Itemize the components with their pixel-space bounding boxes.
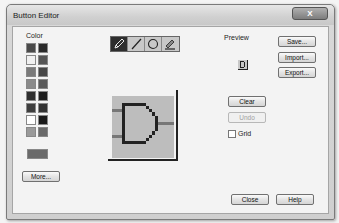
export-button[interactable]: Export... <box>278 67 316 78</box>
color-swatch[interactable] <box>38 79 48 89</box>
preview-image <box>238 60 248 72</box>
and-gate-bitmap <box>112 96 174 158</box>
close-window-button[interactable]: X <box>292 7 328 20</box>
fill-icon <box>164 38 176 50</box>
color-swatch[interactable] <box>38 103 48 113</box>
tool-pencil[interactable] <box>111 37 128 51</box>
close-button[interactable]: Close <box>231 194 269 205</box>
color-swatch[interactable] <box>26 115 36 125</box>
help-button[interactable]: Help <box>276 194 314 205</box>
color-swatch[interactable] <box>38 55 48 65</box>
canvas-frame-right <box>176 90 178 160</box>
grid-checkbox[interactable] <box>228 130 236 138</box>
color-swatch[interactable] <box>26 79 36 89</box>
import-button[interactable]: Import... <box>278 52 316 63</box>
color-swatch[interactable] <box>38 67 48 77</box>
and-gate-preview-icon <box>238 60 248 70</box>
color-swatch[interactable] <box>38 91 48 101</box>
color-label: Color <box>26 32 43 39</box>
edit-canvas[interactable] <box>112 96 174 158</box>
preview-label: Preview <box>224 34 249 41</box>
color-swatch[interactable] <box>38 115 48 125</box>
tool-line[interactable] <box>128 37 145 51</box>
pencil-icon <box>113 38 125 50</box>
circle-icon <box>147 38 159 50</box>
tool-circle[interactable] <box>145 37 162 51</box>
canvas-frame-bottom <box>108 159 178 161</box>
drawing-tools <box>110 36 180 52</box>
line-icon <box>130 38 142 50</box>
grid-label: Grid <box>238 130 251 137</box>
color-swatch[interactable] <box>38 43 48 53</box>
save-button[interactable]: Save... <box>278 36 316 47</box>
undo-button[interactable]: Undo <box>228 112 266 123</box>
color-swatch[interactable] <box>26 43 36 53</box>
more-colors-button[interactable]: More... <box>22 171 60 182</box>
dialog-title: Button Editor <box>13 11 59 20</box>
color-swatch[interactable] <box>26 55 36 65</box>
title-bar[interactable]: Button Editor X <box>7 5 334 25</box>
color-swatch[interactable] <box>26 103 36 113</box>
color-swatch[interactable] <box>26 67 36 77</box>
tool-fill[interactable] <box>162 37 179 51</box>
color-swatch[interactable] <box>38 127 48 137</box>
clear-button[interactable]: Clear <box>228 96 266 107</box>
color-swatch[interactable] <box>26 127 36 137</box>
color-swatch[interactable] <box>26 91 36 101</box>
current-color-indicator <box>27 149 48 159</box>
close-icon: X <box>307 9 312 18</box>
